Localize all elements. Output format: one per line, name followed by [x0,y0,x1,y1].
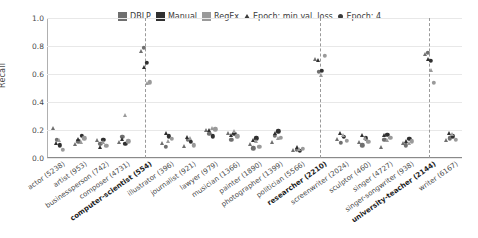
data-point [182,144,186,148]
y-tick-label: 0.0 [32,154,44,163]
data-point [51,126,55,130]
highlight-dashed-line [320,18,321,158]
data-point [73,142,77,146]
plot-area [47,18,462,158]
data-point [188,136,192,140]
gridline [47,102,462,103]
gridline [47,158,462,159]
y-axis-ticks: 0.00.20.40.60.81.0 [16,18,44,158]
data-point [429,68,433,72]
gridline [47,46,462,47]
x-axis-ticks: actor (5238)artist (953)businessperson (… [47,160,462,238]
y-tick-label: 0.6 [32,70,44,79]
y-tick-label: 0.2 [32,126,44,135]
data-point [79,140,83,144]
gridline [47,18,462,19]
highlight-dashed-line [145,18,146,158]
highlight-dashed-line [429,18,430,158]
y-tick-label: 1.0 [32,14,44,23]
data-point [120,137,124,141]
data-point [101,140,105,144]
data-point [57,138,61,142]
data-point [316,58,320,62]
data-point [98,145,102,149]
y-tick-label: 0.8 [32,42,44,51]
data-point [341,133,345,137]
y-tick-label: 0.4 [32,98,44,107]
gridline [47,130,462,131]
data-point [379,145,383,149]
data-point [123,113,127,117]
data-point [270,140,274,144]
data-point [254,139,258,143]
chart-root: DBLP Manual RegEx Epoch: min val. loss E… [0,0,478,238]
gridline [47,74,462,75]
data-point [232,129,236,133]
data-point [142,65,146,69]
y-axis-label: Recall [0,63,7,88]
data-point [319,73,323,77]
data-point [450,132,454,136]
